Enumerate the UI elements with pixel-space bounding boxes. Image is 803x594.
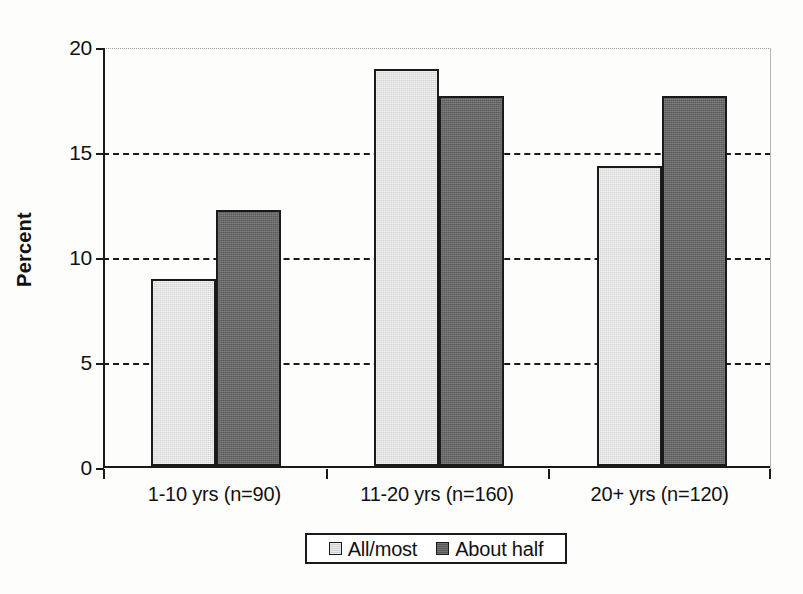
bar-about-half-0 [216,210,281,466]
legend-label-series-a: All/most [348,539,418,559]
y-tick-label-0: 0 [6,457,92,478]
legend-entry-series-a: All/most [329,539,418,559]
dark-gray-swatch-icon [436,542,449,555]
y-tick-label-15: 15 [6,142,92,163]
y-tick-label-5: 5 [6,352,92,373]
bar-about-half-1 [439,96,504,466]
bar-about-half-2 [662,96,727,466]
bar-all-most-0 [151,279,216,466]
x-axis-end-tick-0 [103,469,105,479]
bar-all-most-1 [374,69,439,466]
x-category-label-2: 20+ yrs (n=120) [540,481,780,507]
y-tick-label-20: 20 [6,37,92,58]
plot-area [103,48,771,468]
x-axis-end-tick-1 [769,469,771,479]
legend-label-series-b: About half [455,539,543,559]
legend-entry-series-b: About half [436,539,543,559]
x-category-label-1: 11-20 yrs (n=160) [317,481,557,507]
bar-all-most-2 [597,166,662,466]
x-tick-2 [548,469,550,479]
y-tick-label-10: 10 [6,247,92,268]
x-tick-1 [326,469,328,479]
plot-frame-right-edge [770,48,771,469]
bar-chart-figure: Percent 05101520 1-10 yrs (n=90)11-20 yr… [0,0,803,594]
light-gray-swatch-icon [329,542,342,555]
x-category-label-0: 1-10 yrs (n=90) [94,481,334,507]
chart-legend: All/most About half [305,533,567,564]
